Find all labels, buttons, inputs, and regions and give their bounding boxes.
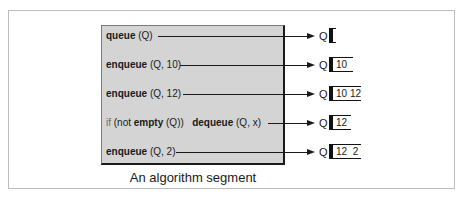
statement-enqueue-2: enqueue (Q, 2) (106, 146, 175, 158)
statement-args: (Q, 10) (147, 59, 181, 70)
queue-state: 10 (329, 57, 353, 72)
queue-state: 12 (329, 115, 351, 130)
statement-keyword: enqueue (106, 88, 147, 99)
arrow-line (180, 65, 308, 66)
statement-args: (Q, 12) (147, 88, 181, 99)
queue-label: Q (319, 88, 328, 100)
statement-create-queue: queue (Q) (106, 30, 153, 42)
statement-keyword: dequeue (192, 117, 233, 128)
queue-label: Q (319, 117, 328, 129)
statement-enqueue-12: enqueue (Q, 12) (106, 88, 181, 100)
arrow-line (176, 152, 308, 153)
arrow-head-icon (307, 120, 315, 126)
queue-label: Q (319, 146, 328, 158)
statement-conditional-dequeue: if (not empty (Q)) dequeue (Q, x) (106, 117, 261, 129)
statement-keyword: empty (134, 117, 163, 128)
figure-caption: An algorithm segment (101, 170, 285, 185)
queue-label: Q (319, 30, 328, 42)
queue-state: 10 12 (329, 86, 361, 101)
statement-args: (Q) (135, 30, 152, 41)
arrow-line (268, 123, 308, 124)
arrow-head-icon (307, 149, 315, 155)
statement-text: (not (111, 117, 134, 128)
arrow-head-icon (307, 62, 315, 68)
statement-text: (Q)) (163, 117, 184, 128)
queue-label: Q (319, 59, 328, 71)
statement-args: (Q, x) (233, 117, 261, 128)
statement-enqueue-10: enqueue (Q, 10) (106, 59, 181, 71)
queue-state-empty (329, 28, 336, 43)
arrow-head-icon (307, 33, 315, 39)
statement-keyword: enqueue (106, 59, 147, 70)
statement-args: (Q, 2) (147, 146, 175, 157)
statement-keyword: queue (106, 30, 135, 41)
queue-state: 12 2 (329, 144, 361, 159)
statement-keyword: enqueue (106, 146, 147, 157)
arrow-line (158, 36, 308, 37)
arrow-line (183, 94, 308, 95)
arrow-head-icon (307, 91, 315, 97)
